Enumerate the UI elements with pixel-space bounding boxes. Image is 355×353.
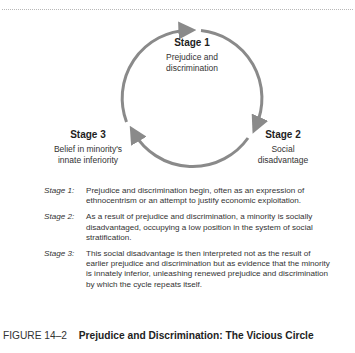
stage-3-description: Belief in minority's innate inferiority [42,144,134,165]
stage-2-desc-line: disadvantage [250,155,316,166]
stage-1-description: Prejudice and discrimination [150,52,234,73]
arrow-stage2-to-stage3 [134,133,248,167]
note-text: This social disadvantage is then interpr… [86,249,334,290]
figure-caption: FIGURE 14–2 Prejudice and Discrimination… [3,330,314,341]
note-key: Stage 3: [44,249,86,290]
note-key: Stage 2: [44,212,86,243]
stage-3-label: Stage 3 Belief in minority's innate infe… [42,129,134,165]
stage-2-label: Stage 2 Social disadvantage [250,129,316,165]
note-stage-3: Stage 3: This social disadvantage is the… [44,249,334,290]
stage-2-description: Social disadvantage [250,144,316,165]
note-stage-1: Stage 1: Prejudice and discrimination be… [44,186,334,206]
stage-3-title: Stage 3 [42,129,134,141]
stage-1-desc-line: Prejudice and [150,52,234,63]
stage-1-desc-line: discrimination [150,63,234,74]
stage-1-label: Stage 1 Prejudice and discrimination [150,37,234,73]
stage-2-title: Stage 2 [250,129,316,141]
note-key: Stage 1: [44,186,86,206]
note-text: Prejudice and discrimination begin, ofte… [86,186,334,206]
stage-1-title: Stage 1 [150,37,234,49]
note-text: As a result of prejudice and discriminat… [86,212,334,243]
figure-title: Prejudice and Discrimination: The Viciou… [79,330,314,341]
stage-2-desc-line: Social [250,144,316,155]
stage-notes: Stage 1: Prejudice and discrimination be… [44,186,334,296]
stage-3-desc-line: Belief in minority's [42,144,134,155]
figure-number: FIGURE 14–2 [3,330,67,341]
note-stage-2: Stage 2: As a result of prejudice and di… [44,212,334,243]
stage-3-desc-line: innate inferiority [42,155,134,166]
